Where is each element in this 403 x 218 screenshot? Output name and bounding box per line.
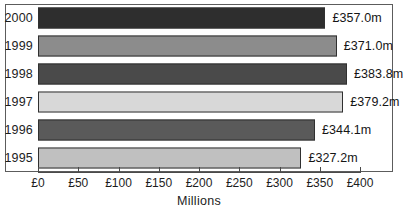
x-tick	[320, 167, 321, 173]
bar-row: 2000£357.0m	[0, 4, 398, 32]
category-label-2000: 2000	[0, 11, 33, 25]
bar-value-label-1996: £344.1m	[322, 123, 371, 137]
category-label-1995: 1995	[0, 151, 33, 165]
bar-1997	[38, 92, 343, 113]
category-label-1997: 1997	[0, 95, 33, 109]
bar-value-label-1997: £379.2m	[350, 95, 399, 109]
x-tick	[199, 167, 200, 173]
bar-value-label-1995: £327.2m	[308, 151, 357, 165]
x-tick	[119, 167, 120, 173]
x-tick-label: £100	[105, 176, 132, 190]
category-label-1999: 1999	[0, 39, 33, 53]
x-tick-label: £300	[266, 176, 293, 190]
x-axis-title: Millions	[0, 194, 398, 208]
bar-row: 1999£371.0m	[0, 32, 398, 60]
category-label-1996: 1996	[0, 123, 33, 137]
bar-value-label-1999: £371.0m	[344, 39, 393, 53]
bar-1998	[38, 64, 347, 85]
x-tick	[159, 167, 160, 173]
bar-row: 1998£383.8m	[0, 60, 398, 88]
bar-row: 1996£344.1m	[0, 116, 398, 144]
bar-2000	[38, 8, 325, 29]
bar-row: 1997£379.2m	[0, 88, 398, 116]
x-tick-label: £250	[226, 176, 253, 190]
x-tick-label: £150	[145, 176, 172, 190]
x-tick	[78, 167, 79, 173]
category-label-1998: 1998	[0, 67, 33, 81]
x-tick	[280, 167, 281, 173]
bar-value-label-1998: £383.8m	[354, 67, 403, 81]
x-tick	[38, 167, 39, 173]
x-tick	[360, 167, 361, 173]
x-tick	[239, 167, 240, 173]
x-tick-label: £350	[306, 176, 333, 190]
bar-1996	[38, 120, 315, 141]
x-tick-label: £400	[347, 176, 374, 190]
bar-value-label-2000: £357.0m	[332, 11, 381, 25]
x-tick-label: £200	[186, 176, 213, 190]
bar-1995	[38, 148, 301, 169]
x-tick-label: £50	[68, 176, 88, 190]
bar-1999	[38, 36, 337, 57]
x-tick-label: £0	[31, 176, 44, 190]
